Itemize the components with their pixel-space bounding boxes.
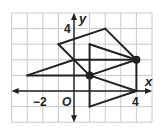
figure-segment	[90, 60, 137, 76]
y-axis-label: y	[78, 11, 87, 26]
origin-label: O	[62, 95, 72, 109]
coordinate-plane: y x O −2 4 4	[0, 0, 162, 128]
x-tick-label-4: 4	[132, 95, 139, 109]
figure-segment	[27, 60, 74, 76]
figure-segment	[90, 91, 137, 107]
y-tick-label-4: 4	[64, 22, 71, 36]
y-axis-down-arrow-icon	[71, 115, 77, 122]
x-axis-label: x	[144, 74, 153, 89]
coordinate-plane-figure: y x O −2 4 4	[0, 0, 162, 128]
x-axis-left-arrow-icon	[12, 88, 19, 94]
center-of-dilation-1-point	[86, 71, 94, 79]
x-tick-label-neg2: −2	[33, 95, 47, 109]
center-of-dilation-2-point	[132, 56, 140, 64]
figure-segment	[90, 75, 137, 91]
y-axis-up-arrow-icon	[71, 13, 77, 20]
